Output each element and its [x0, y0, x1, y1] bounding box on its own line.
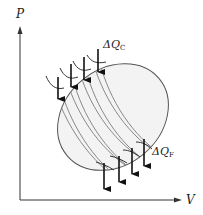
heat-in-subscript: C	[120, 44, 125, 52]
heat-in-symbol: ΔQ	[103, 38, 120, 51]
heat-out-symbol: ΔQ	[152, 145, 169, 158]
v-axis-arrow-icon	[174, 198, 182, 203]
p-axis-label: P	[16, 8, 24, 20]
v-axis-label: V	[186, 194, 195, 206]
heat-in-label: ΔQC	[103, 39, 125, 52]
p-axis-arrow-icon	[18, 26, 23, 34]
heat-out-subscript: F	[169, 151, 174, 159]
pv-diagram: P V ΔQC ΔQF	[0, 0, 203, 215]
heat-out-label: ΔQF	[152, 146, 174, 159]
pv-diagram-svg	[0, 0, 203, 215]
